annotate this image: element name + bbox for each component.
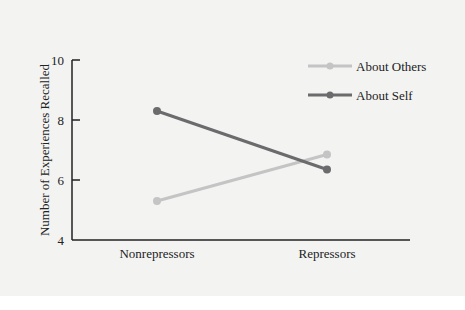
y-tick-8: 8 xyxy=(58,113,65,128)
x-tick-repressors: Repressors xyxy=(298,246,355,261)
series-about-self-line xyxy=(157,111,327,170)
legend-label-self: About Self xyxy=(356,88,413,103)
point-self-nonrepressors xyxy=(153,107,161,115)
y-tick-6: 6 xyxy=(58,173,65,188)
y-tick-4: 4 xyxy=(58,233,65,248)
point-self-repressors xyxy=(323,166,331,174)
point-others-repressors xyxy=(323,151,331,159)
line-chart: 10 8 6 4 Number of Experiences Recalled … xyxy=(0,0,465,296)
x-tick-nonrepressors: Nonrepressors xyxy=(119,246,194,261)
y-axis-label: Number of Experiences Recalled xyxy=(37,63,52,236)
point-others-nonrepressors xyxy=(153,197,161,205)
legend-label-others: About Others xyxy=(356,59,426,74)
y-tick-10: 10 xyxy=(51,53,64,68)
legend-self-marker xyxy=(327,92,334,99)
legend-others-marker xyxy=(327,63,334,70)
chart-panel: 10 8 6 4 Number of Experiences Recalled … xyxy=(0,0,465,296)
legend: About Others About Self xyxy=(308,59,426,103)
